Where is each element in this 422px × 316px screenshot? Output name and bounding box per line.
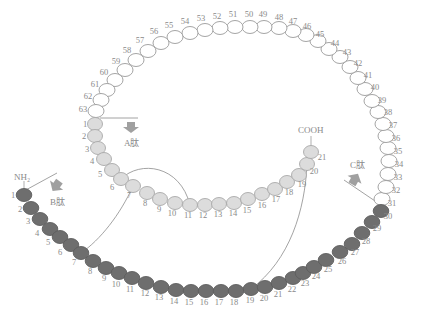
- ring_chain-residue-51: [227, 21, 243, 34]
- b_chain-residue-number: 10: [112, 279, 121, 289]
- c-peptide-label: C肽: [350, 159, 365, 170]
- ring_chain-residue-number: 56: [150, 26, 159, 36]
- a_chain-residue-number: 3: [85, 144, 89, 154]
- ring_chain-residue-53: [197, 24, 213, 37]
- b_chain-residue-number: 2: [18, 204, 22, 214]
- a_chain-residue-number: 11: [184, 210, 192, 220]
- ring_chain-residue-number: 50: [245, 9, 254, 19]
- ring_chain-residue-number: 53: [197, 13, 206, 23]
- b_chain-residue-number: 5: [46, 237, 50, 247]
- b_chain-residue-number: 30: [384, 211, 393, 221]
- b_chain-residue-11: [124, 272, 140, 285]
- b_chain-residue-number: 16: [200, 297, 209, 307]
- b_chain-residue-number: 17: [215, 297, 224, 307]
- b_chain-residue-14: [168, 284, 184, 297]
- a_chain-residue-number: 18: [285, 187, 294, 197]
- ring_chain-residue-number: 44: [331, 38, 340, 48]
- ring_chain-residue-number: 61: [91, 79, 100, 89]
- b_chain-residue-number: 20: [260, 293, 269, 303]
- b_chain-residue-16: [198, 285, 214, 298]
- a_chain-residue-number: 10: [168, 208, 177, 218]
- b_chain-residue-number: 1: [11, 190, 15, 200]
- ring_chain-residue-number: 48: [275, 12, 284, 22]
- a_chain-residue-21: [304, 146, 319, 159]
- ring_chain-residue-number: 57: [136, 35, 145, 45]
- ring_chain-residue-55: [167, 31, 183, 44]
- ring_chain-residue-number: 63: [79, 104, 88, 114]
- a_chain-residue-number: 17: [272, 194, 281, 204]
- a_chain-residue-number: 14: [229, 208, 238, 218]
- a_chain-residue-number: 4: [90, 156, 95, 166]
- ring_chain-residue-number: 42: [354, 58, 363, 68]
- insulin-proinsulin-diagram: 3132333435363738394041424344454647484950…: [0, 0, 422, 316]
- b_chain-residue-15: [183, 285, 199, 298]
- ring_chain-residue-63: [88, 105, 104, 118]
- b_chain-residue-number: 26: [338, 256, 347, 266]
- a_chain-residue-number: 19: [298, 179, 307, 189]
- b_chain-residue-number: 7: [72, 257, 76, 267]
- ring_chain-residue-number: 51: [229, 9, 238, 19]
- b_chain-residue-number: 4: [35, 228, 40, 238]
- ring_chain-residue-number: 54: [181, 16, 190, 26]
- disulfide-bond-a7-b7: [81, 186, 133, 253]
- ring_chain-residue-number: 46: [303, 21, 312, 31]
- b_chain-residue-number: 21: [274, 289, 283, 299]
- a_chain-residue-number: 16: [258, 200, 267, 210]
- ring_chain-residue-number: 36: [392, 133, 401, 143]
- ring_chain-residue-number: 32: [392, 185, 401, 195]
- b_chain-residue-number: 15: [185, 297, 194, 307]
- arrow-down-left-icon: [46, 176, 66, 195]
- a_chain-residue-number: 5: [98, 169, 102, 179]
- b_chain-residue-18: [228, 285, 244, 298]
- a_chain-residue-number: 20: [310, 166, 319, 176]
- b_chain-residue-number: 18: [230, 297, 239, 307]
- arrow-up-right-icon: [345, 170, 365, 188]
- b_chain-residue-number: 29: [373, 223, 382, 233]
- a_chain-residue-number: 2: [82, 131, 86, 141]
- b_chain-residue-number: 19: [246, 295, 255, 305]
- b_chain-residue-2: [23, 202, 39, 215]
- b_chain-residue-number: 11: [126, 284, 134, 294]
- ring_chain-residue-number: 37: [389, 120, 398, 130]
- ring_chain-residue-54: [182, 27, 198, 40]
- ring_chain-residue-52: [212, 22, 228, 35]
- ring_chain-residue-number: 62: [84, 91, 93, 101]
- ring_chain-residue-48: [271, 22, 287, 35]
- b_chain-residue-number: 28: [362, 236, 371, 246]
- a_chain-residue-number: 8: [143, 198, 147, 208]
- b_chain-residue-number: 9: [102, 273, 106, 283]
- ring_chain-residue-number: 60: [100, 67, 109, 77]
- ring_chain-residue-number: 45: [316, 29, 325, 39]
- ring_chain-residue-number: 34: [395, 159, 404, 169]
- b_chain-residue-21: [271, 277, 287, 290]
- ring_chain-residue-number: 43: [343, 47, 352, 57]
- a_chain-residue-number: 1: [83, 119, 87, 129]
- nh2-terminus-label: NH₂: [14, 172, 30, 182]
- diagram-canvas: 3132333435363738394041424344454647484950…: [0, 0, 422, 316]
- b_chain-residue-number: 12: [141, 288, 150, 298]
- ring_chain-residue-58: [128, 54, 144, 67]
- a_chain-residue-2: [88, 130, 103, 143]
- b_chain-residue-number: 24: [312, 271, 321, 281]
- residue-number-layer: 3132333435363738394041424344454647484950…: [11, 9, 404, 307]
- ring_chain-residue-number: 52: [213, 11, 222, 21]
- cooh-terminus-label: COOH: [298, 125, 324, 135]
- ring_chain-residue-50: [242, 21, 258, 34]
- b_chain-residue-number: 14: [170, 296, 179, 306]
- ring_chain-residue-number: 35: [394, 146, 403, 156]
- ring_chain-residue-number: 49: [259, 9, 268, 19]
- b_chain-residue-1: [16, 189, 32, 202]
- a_chain-residue-number: 6: [110, 182, 114, 192]
- ring_chain-residue-number: 47: [289, 16, 298, 26]
- b_chain-residue-19: [243, 283, 259, 296]
- b_chain-residue-20: [257, 281, 273, 294]
- ring_chain-residue-47: [285, 25, 301, 38]
- b_chain-residue-number: 27: [351, 247, 360, 257]
- b-peptide-label: B肽: [50, 196, 65, 207]
- a_chain-residue-number: 21: [318, 152, 327, 162]
- ring_chain-residue-number: 59: [112, 56, 121, 66]
- b_chain-residue-number: 3: [26, 216, 30, 226]
- ring_chain-residue-number: 31: [388, 198, 397, 208]
- ring_chain-residue-number: 55: [165, 20, 174, 30]
- ring_chain-residue-number: 38: [384, 107, 393, 117]
